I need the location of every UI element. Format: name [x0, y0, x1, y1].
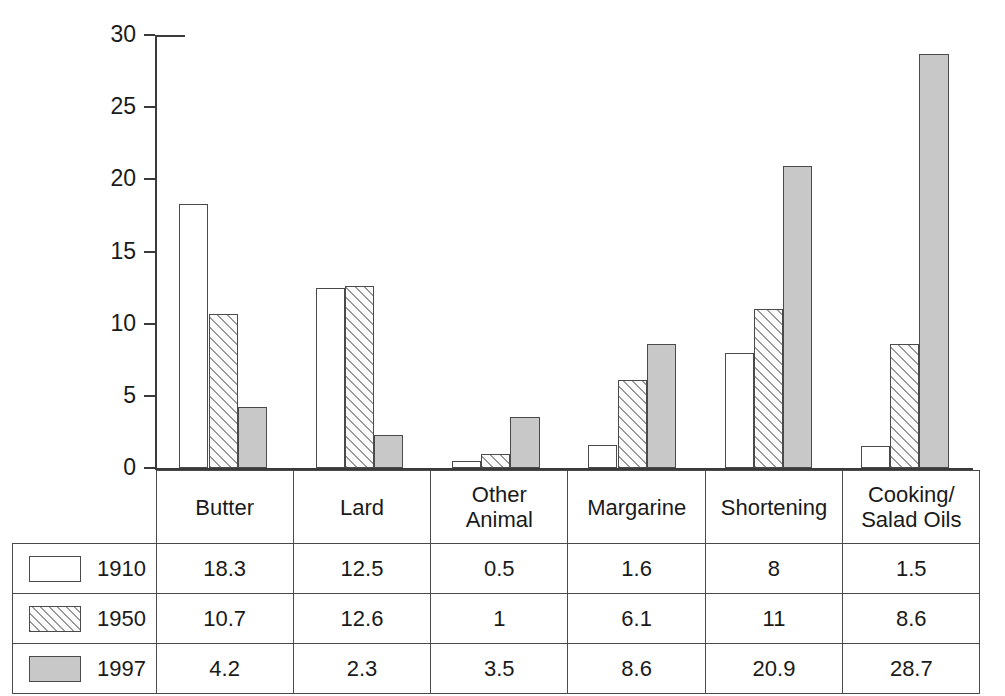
bar-group: [700, 28, 836, 468]
bar-group-inner: [291, 28, 427, 468]
bar-group: [291, 28, 427, 468]
table-value-cell: 4.2: [156, 644, 293, 694]
bar: [783, 166, 812, 468]
table-value-cell: 1.6: [568, 544, 705, 594]
table-value-cell: 6.1: [568, 594, 705, 644]
table-value-cell: 2.3: [293, 644, 430, 694]
bar: [588, 445, 617, 468]
y-axis-tick-label: 25: [92, 95, 136, 118]
table-header-row: ButterLardOtherAnimalMargarineShortening…: [13, 471, 980, 544]
y-axis-tick-mark: [144, 251, 155, 253]
table-value-cell: 12.5: [293, 544, 430, 594]
bar: [345, 286, 374, 468]
legend-series-label: 1997: [97, 656, 146, 682]
y-axis-tick-label: 10: [92, 312, 136, 335]
category-header-label: Salad Oils: [843, 507, 979, 532]
values-table: ButterLardOtherAnimalMargarineShortening…: [12, 470, 980, 694]
y-axis-tick-mark: [144, 34, 155, 36]
y-axis-tick-mark: [144, 178, 155, 180]
bar-group: [564, 28, 700, 468]
table-value-cell: 3.5: [431, 644, 568, 694]
table-value-cell: 1.5: [843, 544, 980, 594]
y-axis-tick-label: 20: [92, 167, 136, 190]
legend-swatch-icon: [29, 606, 81, 632]
category-header-cell: OtherAnimal: [431, 471, 568, 544]
legend-row-1950[interactable]: 1950: [13, 594, 157, 644]
table-value-cell: 1: [431, 594, 568, 644]
table-value-cell: 0.5: [431, 544, 568, 594]
bar-group-inner: [700, 28, 836, 468]
plot-area: 051015202530: [0, 0, 1005, 480]
bar: [725, 353, 754, 468]
bar-group-inner: [155, 28, 291, 468]
y-axis-tick-mark: [144, 323, 155, 325]
category-header-label: Cooking/: [843, 482, 979, 507]
table-body: ButterLardOtherAnimalMargarineShortening…: [13, 471, 980, 694]
category-header-cell: Butter: [156, 471, 293, 544]
legend-series-label: 1910: [97, 556, 146, 582]
table-row: 19974.22.33.58.620.928.7: [13, 644, 980, 694]
category-header-label: Butter: [157, 495, 293, 520]
bar: [374, 435, 403, 468]
bar: [316, 288, 345, 468]
bar: [238, 407, 267, 468]
y-axis-tick-label: 30: [92, 23, 136, 46]
table-value-cell: 20.9: [705, 644, 842, 694]
legend-row-1997[interactable]: 1997: [13, 644, 157, 694]
bar: [209, 314, 238, 468]
table-value-cell: 18.3: [156, 544, 293, 594]
category-header-label: Animal: [431, 507, 567, 532]
bar-group-inner: [564, 28, 700, 468]
y-axis-tick-mark: [144, 467, 155, 469]
bar: [890, 344, 919, 468]
table-value-cell: 28.7: [843, 644, 980, 694]
legend-swatch-icon: [29, 556, 81, 582]
y-axis-tick-mark: [144, 395, 155, 397]
bar-group: [837, 28, 973, 468]
legend-swatch-icon: [29, 656, 81, 682]
legend-corner-cell: [13, 471, 157, 544]
bar: [179, 204, 208, 468]
category-header-label: Lard: [294, 495, 430, 520]
table-value-cell: 10.7: [156, 594, 293, 644]
category-header-cell: Lard: [293, 471, 430, 544]
bar: [647, 344, 676, 468]
category-header-cell: Cooking/Salad Oils: [843, 471, 980, 544]
category-header-label: Margarine: [568, 495, 704, 520]
table-value-cell: 8.6: [843, 594, 980, 644]
y-axis-tick-label: 15: [92, 240, 136, 263]
category-header-label: Shortening: [706, 495, 842, 520]
data-table: ButterLardOtherAnimalMargarineShortening…: [12, 470, 973, 694]
bar: [919, 54, 948, 468]
bar-group-inner: [837, 28, 973, 468]
bar: [754, 309, 783, 468]
y-axis-tick-mark: [144, 106, 155, 108]
table-value-cell: 12.6: [293, 594, 430, 644]
bar-group: [155, 28, 291, 468]
bar-group-inner: [428, 28, 564, 468]
legend-series-label: 1950: [97, 606, 146, 632]
legend-row-1910[interactable]: 1910: [13, 544, 157, 594]
bar: [510, 417, 539, 468]
table-row: 191018.312.50.51.681.5: [13, 544, 980, 594]
bar-group: [428, 28, 564, 468]
bar: [452, 461, 481, 468]
table-value-cell: 8.6: [568, 644, 705, 694]
chart-figure: 051015202530 ButterLardOtherAnimalMargar…: [0, 0, 1005, 696]
category-header-cell: Shortening: [705, 471, 842, 544]
bar: [861, 446, 890, 468]
table-value-cell: 8: [705, 544, 842, 594]
category-header-cell: Margarine: [568, 471, 705, 544]
table-value-cell: 11: [705, 594, 842, 644]
category-header-label: Other: [431, 482, 567, 507]
bar: [481, 454, 510, 468]
bar: [618, 380, 647, 468]
y-axis-tick-label: 5: [92, 384, 136, 407]
table-row: 195010.712.616.1118.6: [13, 594, 980, 644]
